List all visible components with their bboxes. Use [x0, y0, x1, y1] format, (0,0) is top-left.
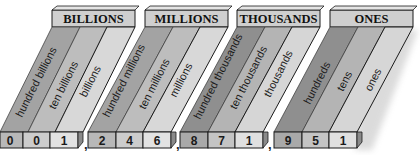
digit: 7 [218, 134, 225, 148]
group-header-label: MILLIONS [155, 12, 219, 26]
digit: 2 [99, 134, 106, 148]
digit: 1 [61, 134, 68, 148]
header-box-top [237, 6, 324, 10]
group-header-label: ONES [354, 12, 388, 26]
digit: 1 [340, 134, 347, 148]
place-value-chart: BILLIONS hundred billions ten billions b… [0, 0, 420, 155]
digit: 0 [33, 134, 40, 148]
digit-box-side [78, 132, 83, 148]
comma-separator: , [268, 137, 272, 152]
group-header-label: THOUSANDS [240, 12, 318, 26]
header-box-top [330, 6, 417, 10]
group-header-label: BILLIONS [63, 12, 123, 26]
header-box-top [52, 6, 139, 10]
comma-separator: , [176, 137, 180, 152]
digit: 8 [191, 134, 198, 148]
digit: 4 [126, 134, 133, 148]
digit: 5 [312, 134, 319, 148]
comma-separator: , [84, 137, 88, 152]
digit: 1 [246, 134, 253, 148]
digit: 9 [285, 134, 292, 148]
digit: 0 [7, 134, 14, 148]
digit: 6 [154, 134, 161, 148]
header-box-top [145, 6, 232, 10]
